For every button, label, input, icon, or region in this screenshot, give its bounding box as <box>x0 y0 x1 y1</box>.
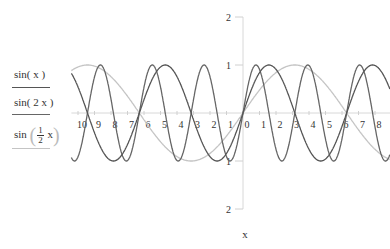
legend-line-sin-2x <box>12 114 50 115</box>
x-tick-label: 4 <box>179 119 184 130</box>
y-tick-label: 1 <box>226 60 231 71</box>
paren-open: ( <box>30 124 37 146</box>
x-tick-label: 5 <box>327 119 332 130</box>
x-tick-label: 7 <box>360 119 365 130</box>
legend-label-sin-x: sin( x ) <box>14 68 45 80</box>
legend-label-sin-half-x: sin (12 x) <box>14 124 60 147</box>
legend-line-sin-x <box>12 87 50 88</box>
x-tick-label: 4 <box>311 119 316 130</box>
fraction: 12 <box>37 126 44 145</box>
y-tick-label: 2 <box>226 12 231 23</box>
x-tick-label: 1 <box>261 119 266 130</box>
x-tick-label: 0 <box>245 119 250 130</box>
legend-line-sin-half-x <box>12 148 50 149</box>
fraction-denominator: 2 <box>38 136 43 145</box>
x-tick-label: 8 <box>377 119 382 130</box>
x-tick-label: 2 <box>278 119 283 130</box>
legend-label-sin-2x: sin( 2 x ) <box>14 96 53 108</box>
x-tick-label: 2 <box>212 119 217 130</box>
x-tick-label: 7 <box>129 119 134 130</box>
legend: sin( x ) sin( 2 x ) sin (12 x) <box>0 0 80 249</box>
legend-sin-text: sin <box>14 128 27 140</box>
axes: 109876543210123456782112 <box>71 12 390 215</box>
x-tick-label: 9 <box>96 119 101 130</box>
x-axis-title: x <box>242 228 248 240</box>
paren-close: ) <box>53 124 60 146</box>
y-tick-label: 2 <box>226 204 231 215</box>
